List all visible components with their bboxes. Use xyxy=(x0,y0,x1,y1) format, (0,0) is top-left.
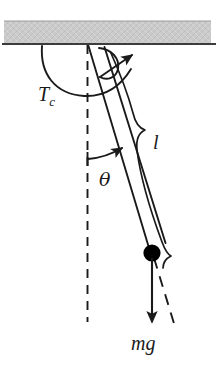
weight-label: mg xyxy=(131,333,155,353)
tension-symbol: T xyxy=(38,83,49,105)
length-label: l xyxy=(153,132,159,152)
tension-subscript: c xyxy=(49,94,55,109)
angle-label: θ xyxy=(99,170,110,189)
tension-label: Tc xyxy=(38,84,55,108)
pendulum-figure: Tc l θ mg xyxy=(0,0,218,374)
angle-arc-arrow xyxy=(88,148,123,166)
rod-extension-dashed-line xyxy=(154,258,176,330)
support-ceiling xyxy=(2,21,216,44)
